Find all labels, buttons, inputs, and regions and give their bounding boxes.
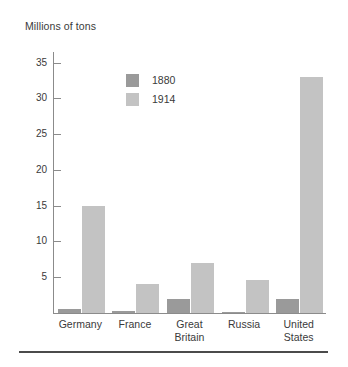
y-tick-label: 25	[21, 129, 47, 139]
bar-france-1914	[136, 284, 159, 313]
x-category-label: GreatBritain	[162, 318, 217, 343]
x-category-label-line: Germany	[53, 318, 108, 331]
bar-great-britain-1914	[191, 263, 214, 313]
bar-france-1880	[112, 311, 135, 313]
legend-label: 1880	[152, 74, 175, 86]
x-category-label-line: Great	[162, 318, 217, 331]
bar-united-states-1914	[300, 77, 323, 313]
bar-russia-1880	[222, 312, 245, 313]
x-category-label-line: United	[271, 318, 326, 331]
x-category-label-line: Russia	[217, 318, 272, 331]
legend-item-1914: 1914	[126, 91, 175, 107]
y-tick-label: 10	[21, 236, 47, 246]
legend-label: 1914	[152, 93, 175, 105]
bar-germany-1914	[82, 206, 105, 313]
y-tick-label: 5	[21, 272, 47, 282]
x-category-label-line: States	[271, 331, 326, 344]
bar-great-britain-1880	[167, 299, 190, 313]
x-category-label-line: Britain	[162, 331, 217, 344]
bar-germany-1880	[58, 309, 81, 313]
legend-item-1880: 1880	[126, 72, 175, 88]
legend-swatch-icon	[126, 93, 139, 106]
x-category-label: France	[108, 318, 163, 331]
bar-group	[276, 52, 323, 313]
x-axis-line	[53, 313, 326, 314]
bar-russia-1914	[246, 280, 269, 313]
x-category-label: Germany	[53, 318, 108, 331]
bar-chart-figure: Millions of tons 5101520253035 GermanyFr…	[0, 0, 348, 367]
legend-swatch-icon	[126, 74, 139, 87]
bar-group	[58, 52, 105, 313]
y-tick-label: 20	[21, 165, 47, 175]
x-category-label: Russia	[217, 318, 272, 331]
y-tick-label: 35	[21, 58, 47, 68]
bar-united-states-1880	[276, 299, 299, 313]
y-tick-label: 30	[21, 93, 47, 103]
x-category-label: UnitedStates	[271, 318, 326, 343]
x-category-label-line: France	[108, 318, 163, 331]
y-tick-label: 15	[21, 201, 47, 211]
chart-legend: 18801914	[126, 72, 175, 110]
plot-area	[53, 52, 326, 313]
bar-group	[222, 52, 269, 313]
bottom-rule	[19, 351, 328, 353]
chart-title: Millions of tons	[25, 20, 96, 32]
